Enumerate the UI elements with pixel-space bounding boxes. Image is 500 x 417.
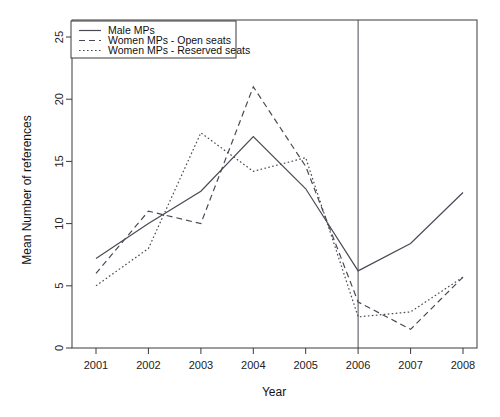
chart-figure: 0 5 10 15 20 25 Mean Number of reference… [0,0,500,417]
x-tick-label-2007: 2007 [398,359,422,371]
plot-frame [72,20,477,348]
series-line-women-open-seats [96,87,463,330]
y-axis-title: Mean Number of references [20,115,34,264]
series-group [96,87,463,330]
series-line-male-mps [96,137,463,271]
chart-legend: Male MPs Women MPs - Open seats Women MP… [71,21,250,58]
line-chart-svg: 0 5 10 15 20 25 Mean Number of reference… [0,0,500,417]
x-tick-label-2004: 2004 [241,359,265,371]
x-axis: 2001 2002 2003 2004 2005 2006 2007 2008 … [84,348,475,399]
legend-label-women-reserved-seats: Women MPs - Reserved seats [108,44,250,56]
y-axis: 0 5 10 15 20 25 Mean Number of reference… [20,31,72,351]
y-tick-label-15: 15 [53,155,65,167]
x-axis-title: Year [262,385,286,399]
y-tick-label-20: 20 [53,93,65,105]
y-tick-label-0: 0 [53,345,65,351]
x-tick-label-2002: 2002 [136,359,160,371]
y-tick-label-25: 25 [53,31,65,43]
series-line-women-reserved-seats [96,133,463,317]
y-tick-label-10: 10 [53,217,65,229]
x-tick-label-2008: 2008 [451,359,475,371]
x-tick-label-2001: 2001 [84,359,108,371]
x-tick-label-2003: 2003 [189,359,213,371]
x-tick-label-2005: 2005 [293,359,317,371]
y-tick-label-5: 5 [53,283,65,289]
x-tick-label-2006: 2006 [346,359,370,371]
